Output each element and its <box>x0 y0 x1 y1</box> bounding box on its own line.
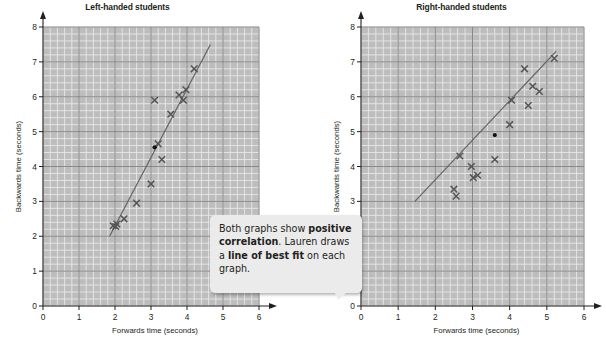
y-tick-label: 7 <box>350 57 355 67</box>
chart-panel-right-handed: Right-handed students 0123456012345678Fo… <box>303 0 606 350</box>
y-tick-label: 5 <box>350 127 355 137</box>
scatter-plot-right: 0123456012345678Forwards time (seconds)B… <box>303 0 606 350</box>
callout-note: Both graphs show positive correlation. L… <box>210 215 362 293</box>
x-tick-label: 1 <box>77 312 82 322</box>
x-tick-label: 6 <box>582 312 587 322</box>
y-axis-arrow <box>358 11 364 19</box>
y-tick-label: 3 <box>32 196 37 206</box>
x-tick-label: 6 <box>257 312 262 322</box>
callout-segment-3: line of best fit <box>228 250 304 261</box>
x-axis-title: Forwards time (seconds) <box>112 326 198 335</box>
x-tick-label: 3 <box>470 312 475 322</box>
y-tick-label: 6 <box>350 92 355 102</box>
y-tick-label: 1 <box>32 266 37 276</box>
y-axis-title: Backwards time (seconds) <box>332 120 341 212</box>
mean-point-marker <box>153 145 157 149</box>
x-tick-label: 0 <box>359 312 364 322</box>
y-axis-title: Backwards time (seconds) <box>14 120 23 212</box>
y-tick-label: 0 <box>32 301 37 311</box>
x-axis-title: Forwards time (seconds) <box>434 326 520 335</box>
y-tick-label: 7 <box>32 57 37 67</box>
x-tick-label: 4 <box>507 312 512 322</box>
callout-segment-0: Both graphs show <box>219 223 308 234</box>
x-tick-label: 5 <box>221 312 226 322</box>
chart-title-left: Left-handed students <box>0 2 279 12</box>
x-tick-label: 5 <box>544 312 549 322</box>
y-axis-arrow <box>40 11 46 19</box>
y-tick-label: 2 <box>32 231 37 241</box>
scatter-plot-left: 0123456012345678Forwards time (seconds)B… <box>0 0 303 350</box>
y-tick-label: 6 <box>32 92 37 102</box>
x-axis-arrow <box>269 303 277 309</box>
x-tick-label: 0 <box>41 312 46 322</box>
x-axis-arrow <box>594 303 602 309</box>
y-tick-label: 0 <box>350 301 355 311</box>
x-tick-label: 4 <box>185 312 190 322</box>
x-tick-label: 1 <box>396 312 401 322</box>
callout-text: Both graphs show positive correlation. L… <box>219 223 351 274</box>
y-tick-label: 3 <box>350 196 355 206</box>
mean-point-marker <box>493 133 497 137</box>
x-tick-label: 3 <box>149 312 154 322</box>
y-tick-label: 8 <box>350 22 355 32</box>
y-tick-label: 4 <box>350 162 355 172</box>
chart-panel-left-handed: Left-handed students 0123456012345678For… <box>0 0 303 350</box>
x-tick-label: 2 <box>113 312 118 322</box>
scatter-graphs-figure: Left-handed students 0123456012345678For… <box>0 0 606 350</box>
y-tick-label: 8 <box>32 22 37 32</box>
chart-title-right: Right-handed students <box>310 2 606 12</box>
y-tick-label: 5 <box>32 127 37 137</box>
x-tick-label: 2 <box>433 312 438 322</box>
y-tick-label: 4 <box>32 162 37 172</box>
